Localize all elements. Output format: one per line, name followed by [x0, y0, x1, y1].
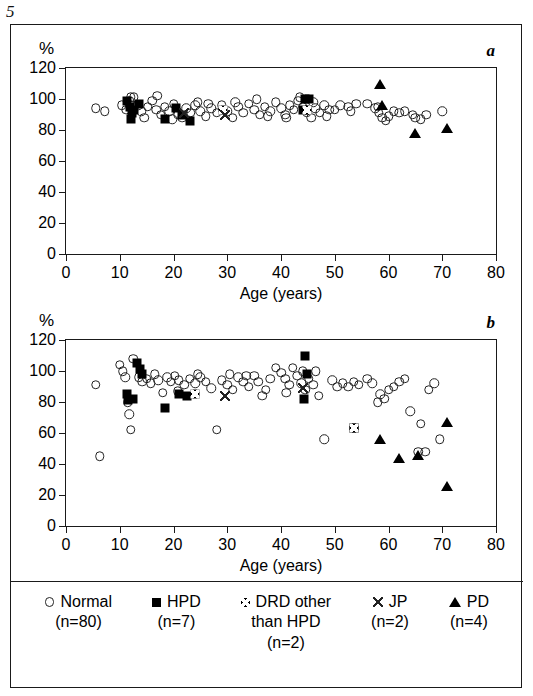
- marker-open-circle: [261, 385, 271, 395]
- x-tick-label: 30: [218, 264, 236, 282]
- x-tick: [335, 526, 336, 533]
- marker-open-circle: [204, 99, 214, 109]
- marker-open-circle: [266, 374, 276, 384]
- y-tick: [59, 68, 66, 69]
- x-tick-label: 40: [272, 264, 290, 282]
- y-tick: [59, 371, 66, 372]
- figure-frame: % a 020406080100120 01020304050607080 Ag…: [10, 24, 522, 688]
- x-tick: [442, 526, 443, 533]
- marker-cross: [298, 383, 308, 393]
- marker-open-circle: [319, 434, 329, 444]
- marker-open-circle: [263, 111, 273, 121]
- marker-open-circle: [91, 104, 101, 114]
- x-tick-label: 40: [272, 536, 290, 554]
- marker-filled-square: [305, 95, 314, 104]
- marker-filled-square: [126, 115, 135, 124]
- x-tick: [120, 526, 121, 533]
- marker-open-circle: [405, 407, 415, 417]
- x-tick-label: 20: [165, 264, 183, 282]
- legend-label: JP: [389, 592, 408, 612]
- marker-open-circle: [384, 111, 394, 121]
- panel-a-points: [66, 68, 496, 254]
- legend-count: (n=2): [371, 612, 409, 632]
- marker-filled-square: [299, 394, 308, 403]
- marker-open-circle: [252, 94, 262, 104]
- marker-open-circle: [45, 597, 55, 607]
- y-tick-label: 100: [29, 362, 56, 380]
- legend-count: (n=4): [450, 612, 488, 632]
- marker-filled-triangle: [441, 417, 453, 427]
- x-tick: [389, 526, 390, 533]
- x-tick: [281, 254, 282, 261]
- panel-b-x-title: Age (years): [65, 557, 497, 575]
- x-tick-label: 50: [326, 264, 344, 282]
- legend-items: Normal(n=80)HPD(n=7)DRD otherthan HPD(n=…: [11, 592, 523, 653]
- panel-a-x-title: Age (years): [65, 285, 497, 303]
- x-tick-label: 0: [62, 264, 71, 282]
- x-tick-label: 30: [218, 536, 236, 554]
- marker-open-circle: [373, 397, 383, 407]
- marker-cross: [220, 391, 230, 401]
- marker-open-circle: [421, 110, 431, 120]
- x-tick-label: 70: [433, 536, 451, 554]
- marker-open-circle: [311, 366, 321, 376]
- y-tick-label: 120: [29, 59, 56, 77]
- y-tick-label: 20: [38, 486, 56, 504]
- marker-filled-square: [161, 115, 170, 124]
- x-tick-label: 10: [111, 536, 129, 554]
- marker-cross: [179, 108, 189, 118]
- marker-open-circle: [91, 380, 101, 390]
- marker-open-circle: [100, 107, 110, 117]
- panel-a-plot-area: 020406080100120 01020304050607080: [65, 67, 497, 255]
- x-tick-label: 0: [62, 536, 71, 554]
- x-tick: [389, 254, 390, 261]
- marker-open-circle: [193, 369, 203, 379]
- marker-filled-triangle: [374, 79, 386, 89]
- legend-symbol-filled-triangle-icon: [449, 597, 461, 607]
- marker-open-circle: [400, 374, 410, 384]
- marker-open-circle: [212, 425, 222, 435]
- y-tick: [59, 402, 66, 403]
- marker-cross: [220, 110, 230, 120]
- y-tick-label: 60: [38, 152, 56, 170]
- marker-filled-triangle: [393, 453, 405, 463]
- x-tick-label: 60: [380, 536, 398, 554]
- marker-crossed-square: [241, 598, 250, 607]
- panel-b-plot-area: 020406080100120 01020304050607080: [65, 339, 497, 527]
- x-tick: [120, 254, 121, 261]
- legend-label: HPD: [167, 592, 201, 612]
- y-tick-label: 80: [38, 121, 56, 139]
- legend-label: PD: [467, 592, 489, 612]
- legend-label-line2: than HPD: [251, 612, 320, 632]
- x-tick: [66, 526, 67, 533]
- marker-open-circle: [126, 425, 136, 435]
- marker-open-circle: [416, 419, 426, 429]
- y-tick: [59, 433, 66, 434]
- marker-open-circle: [314, 391, 324, 401]
- marker-filled-triangle: [409, 128, 421, 138]
- y-tick-label: 100: [29, 90, 56, 108]
- marker-open-circle: [429, 379, 439, 389]
- y-tick: [59, 340, 66, 341]
- y-tick-label: 20: [38, 214, 56, 232]
- legend-symbol-open-circle-icon: [45, 597, 55, 607]
- y-tick-label: 40: [38, 455, 56, 473]
- panel-b-y-unit: %: [39, 311, 54, 331]
- marker-open-circle: [244, 382, 254, 392]
- legend-symbol-crossed-square-icon: [241, 598, 250, 607]
- legend-item-pd: PD(n=4): [449, 592, 489, 633]
- marker-filled-square: [134, 99, 143, 108]
- legend-count: (n=2): [267, 633, 305, 653]
- x-tick: [281, 526, 282, 533]
- marker-open-circle: [120, 372, 130, 382]
- x-tick: [335, 254, 336, 261]
- marker-open-circle: [368, 379, 378, 389]
- marker-filled-square: [161, 404, 170, 413]
- y-tick: [59, 192, 66, 193]
- y-tick: [59, 526, 66, 527]
- figure-page: 5 % a 020406080100120 01020304050607080 …: [0, 0, 533, 696]
- y-tick: [59, 130, 66, 131]
- marker-open-circle: [322, 111, 332, 121]
- legend: Normal(n=80)HPD(n=7)DRD otherthan HPD(n=…: [11, 581, 523, 685]
- marker-open-circle: [438, 107, 448, 117]
